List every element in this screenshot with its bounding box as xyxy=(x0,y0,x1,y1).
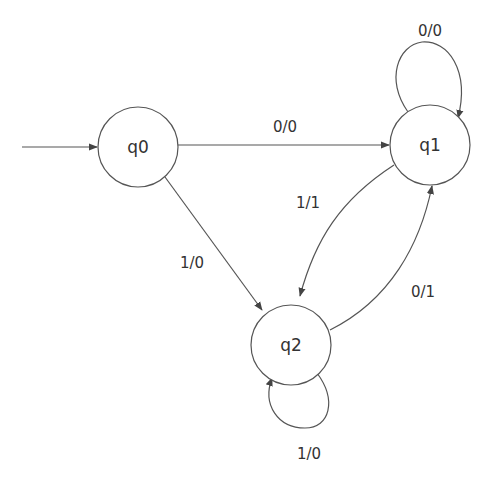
state-q0: q0 xyxy=(98,107,178,187)
state-q2: q2 xyxy=(251,305,331,385)
edge-q2-q1 xyxy=(330,186,432,330)
edge-label-q1-self: 0/0 xyxy=(418,22,442,40)
edge-label-q2-q1: 0/1 xyxy=(411,283,435,301)
edge-label-q1-q2: 1/1 xyxy=(296,194,320,212)
edge-label-q0-q1: 0/0 xyxy=(273,118,297,136)
state-q1: q1 xyxy=(390,105,470,185)
edge-label-q0-q2: 1/0 xyxy=(180,254,204,272)
state-diagram: 0/0 1/0 0/0 1/1 0/1 1/0 q0 q1 q2 xyxy=(0,0,494,488)
edge-q1-q2 xyxy=(300,165,394,296)
state-label-q0: q0 xyxy=(127,137,149,157)
edge-label-q2-self: 1/0 xyxy=(297,445,321,463)
state-label-q2: q2 xyxy=(280,335,302,355)
edge-q0-q2 xyxy=(165,177,262,310)
state-label-q1: q1 xyxy=(419,135,441,155)
